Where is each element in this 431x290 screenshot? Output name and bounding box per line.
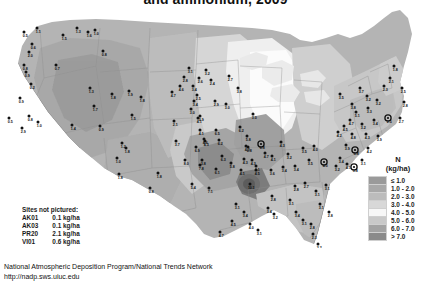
site-value-label: 5.4 [191, 186, 196, 190]
site-value-label: 0.2 [30, 86, 35, 90]
site-dot [367, 107, 370, 110]
site-dot [359, 87, 362, 90]
site-dot [193, 100, 196, 103]
site-marker: 0.5 [23, 31, 28, 39]
site-dot [214, 100, 217, 103]
site-dot [383, 85, 386, 88]
site-dot [280, 141, 283, 144]
site-dot [196, 94, 199, 97]
site-value-label: 0.9 [19, 100, 24, 104]
site-dot [243, 158, 246, 161]
site-dot [270, 169, 273, 172]
site-value-label: 0.8 [149, 190, 154, 194]
site-dot [393, 65, 396, 68]
site-dot [289, 199, 292, 202]
site-marker: 0.8 [28, 115, 33, 123]
site-marker: 2.8 [403, 101, 408, 109]
site-dot [366, 95, 369, 98]
site-dot [111, 93, 114, 96]
site-dot [199, 164, 202, 167]
site-value-label: 3.9 [345, 147, 350, 151]
site-dot [239, 126, 242, 129]
site-value-label: 2.1 [389, 80, 394, 84]
site-dot [361, 123, 364, 126]
legend-label: 1.0 - 2.0 [391, 185, 414, 192]
site-dot [317, 243, 320, 246]
site-value-label: 2.8 [310, 226, 315, 230]
site-marker: 2.5 [401, 87, 406, 95]
site-value-label: 5.1 [355, 114, 360, 118]
site-value-label: 3.4 [193, 103, 198, 107]
site-dot [21, 127, 24, 130]
site-dot [37, 121, 40, 124]
legend-label: 6.0 - 7.0 [391, 225, 414, 232]
site-value-label: 3.5 [339, 96, 344, 100]
site-value-label: 3.4 [282, 169, 287, 173]
site-value-label: 3.3 [367, 110, 372, 114]
sites-not-pictured: Sites not pictured: AK010.1 kg/haAK030.1… [22, 206, 80, 246]
site-value-label: 3.5 [308, 162, 313, 166]
site-dot [218, 139, 221, 142]
site-dot [319, 203, 322, 206]
site-dot [230, 162, 233, 165]
site-marker: 1.0 [37, 121, 42, 129]
site-value-label: 0.8 [28, 118, 33, 122]
site-dot [403, 101, 406, 104]
site-value-label: 3.1 [302, 222, 307, 226]
site-dot [197, 117, 200, 120]
site-dot [249, 223, 252, 226]
site-dot-center [354, 149, 356, 151]
map-legend: N (kg/ha) ≤ 1.01.0 - 2.02.0 - 3.03.0 - 4… [368, 155, 428, 240]
site-code: AK01 [22, 214, 52, 222]
site-dot [62, 34, 65, 37]
site-value-label: 3.1 [188, 70, 193, 74]
site-dot [87, 31, 90, 34]
site-dot [377, 135, 380, 138]
site-value-label: 4.1 [271, 158, 276, 162]
sites-not-pictured-heading: Sites not pictured: [22, 206, 80, 214]
site-value-label: 10.3 [248, 186, 255, 190]
site-dot [302, 147, 305, 150]
site-value-label: 1.8 [157, 175, 162, 179]
site-value-label: 4.3 [245, 148, 250, 152]
legend-label: ≤ 1.0 [391, 177, 405, 184]
site-value-label: 4.3 [365, 136, 370, 140]
site-value-label: 0.9 [25, 74, 30, 78]
site-dot [76, 27, 79, 30]
site-dot [343, 125, 346, 128]
site-value-label: 4.0 [323, 164, 328, 168]
site-marker: 3.2 [273, 213, 278, 221]
site-dot [8, 117, 11, 120]
site-dot [191, 183, 194, 186]
site-dot [131, 114, 134, 117]
site-value-label: 2.8 [328, 214, 333, 218]
site-value-label: 3.2 [287, 156, 292, 160]
site-value-label: 3.7 [359, 90, 364, 94]
site-value-label: 1.1 [36, 30, 41, 34]
site-marker: 0.5 [8, 117, 13, 125]
site-dot [102, 50, 105, 53]
site-dot [252, 113, 255, 116]
site-value-label: 0.5 [23, 34, 28, 38]
site-value-label: 4.3 [243, 161, 248, 165]
site-dot [308, 159, 311, 162]
site-value-label: 5.8 [354, 152, 359, 156]
site-value-label: 0.5 [8, 120, 13, 124]
site-value-label: 4.7 [349, 122, 354, 126]
site-dot [302, 219, 305, 222]
site-dot-center [260, 143, 262, 145]
legend-title: N (kg/ha) [368, 155, 428, 173]
site-dot [376, 99, 379, 102]
site-value-label: 4.6 [179, 88, 184, 92]
site-value-label: 6.3 [221, 158, 226, 162]
site-value-label: 3.2 [273, 216, 278, 220]
site-value-label: 4.7 [171, 94, 176, 98]
site-value-label: 2.8 [183, 79, 188, 83]
site-dot [195, 146, 198, 149]
site-value: 0.6 kg/ha [52, 238, 79, 246]
site-dot [295, 211, 298, 214]
site-dot [287, 153, 290, 156]
site-dot [179, 85, 182, 88]
site-dot [401, 87, 404, 90]
site-dot [184, 159, 187, 162]
